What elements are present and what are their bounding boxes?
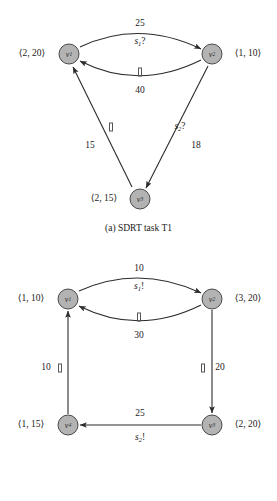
edge-signal-t2-v3-v4: s2!	[135, 433, 145, 444]
vertex-label-t1-v2: ⟨1, 10⟩	[235, 49, 261, 59]
node-label-sub: 2	[212, 51, 215, 57]
edge-signal-t1-v1-v2: s1?	[134, 37, 145, 48]
node-t2-v4[interactable]: v4	[58, 415, 79, 436]
vertex-label-t2-v3: ⟨2, 20⟩	[235, 420, 261, 430]
vertex-label-t1-v1: ⟨2, 20⟩	[19, 49, 45, 59]
node-label-sub: 3	[140, 196, 143, 202]
edge-weight-t1-v2-v1: 40	[135, 86, 145, 96]
edge-weight-t2-v3-v4: 25	[135, 409, 145, 419]
edge-t1-v3-v1	[73, 67, 132, 187]
edge-weight-t1-v1-v2: 25	[135, 19, 145, 29]
vertex-label-t2-v2: ⟨3, 20⟩	[235, 294, 261, 304]
edge-weight-t2-v1-v2: 10	[134, 264, 144, 274]
missing-glyph-icon-t1-v3-v1	[109, 123, 113, 132]
figure-caption-t1: (a) SDRT task T1	[0, 224, 277, 234]
missing-glyph-icon-t2-v2-v3	[201, 364, 205, 373]
edge-signal-t2-v1-v2: s1!	[134, 282, 144, 293]
signal-mark: !	[141, 281, 144, 291]
signal-mark: ?	[181, 121, 185, 131]
figure-sdrt-task-t1: v1 v2 v3 ⟨2, 20⟩ ⟨1, 10⟩ ⟨2, 15⟩ 25 s1? …	[0, 0, 277, 250]
missing-glyph-icon-t1-v2-v1	[138, 68, 142, 77]
missing-glyph-icon-t2-v2-v1	[137, 313, 141, 322]
graph-canvas-t2: v1 v2 v3 v4 ⟨1, 10⟩ ⟨3, 20⟩ ⟨2, 20⟩ ⟨1, …	[0, 250, 277, 465]
edge-layer-t1	[0, 0, 277, 218]
node-label-sub: 2	[212, 296, 215, 302]
edge-signal-t1-v2-v3: s2?	[174, 122, 185, 133]
node-label-sub: 1	[68, 296, 71, 302]
vertex-label-t2-v1: ⟨1, 10⟩	[18, 294, 44, 304]
node-label-sub: 3	[212, 422, 215, 428]
node-t1-v2[interactable]: v2	[202, 44, 223, 65]
edge-weight-t1-v3-v1: 15	[85, 141, 95, 151]
edge-weight-t2-v2-v1: 30	[134, 331, 144, 341]
node-t2-v3[interactable]: v3	[202, 415, 223, 436]
edge-weight-t2-v4-v1: 10	[41, 363, 51, 373]
node-t2-v1[interactable]: v1	[58, 289, 79, 310]
node-label-sub: 1	[69, 51, 72, 57]
signal-mark: !	[142, 432, 145, 442]
figure-sdrt-task-t2: v1 v2 v3 v4 ⟨1, 10⟩ ⟨3, 20⟩ ⟨2, 20⟩ ⟨1, …	[0, 250, 277, 501]
node-t1-v3[interactable]: v3	[130, 189, 151, 210]
node-label-sub: 4	[68, 422, 71, 428]
node-t1-v1[interactable]: v1	[59, 44, 80, 65]
missing-glyph-icon-t2-v4-v1	[58, 364, 62, 373]
vertex-label-t2-v4: ⟨1, 15⟩	[18, 420, 44, 430]
graph-canvas-t1: v1 v2 v3 ⟨2, 20⟩ ⟨1, 10⟩ ⟨2, 15⟩ 25 s1? …	[0, 0, 277, 218]
vertex-label-t1-v3: ⟨2, 15⟩	[91, 194, 117, 204]
edge-weight-t2-v2-v3: 20	[215, 363, 225, 373]
signal-mark: ?	[141, 36, 145, 46]
node-t2-v2[interactable]: v2	[202, 289, 223, 310]
edge-weight-t1-v2-v3: 18	[191, 141, 201, 151]
